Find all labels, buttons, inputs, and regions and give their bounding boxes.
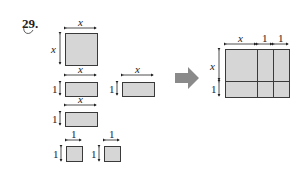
tile-width-label: x (135, 64, 140, 75)
x-squared-tile (225, 49, 258, 82)
tile-height-label: 1 (109, 84, 115, 95)
x-squared-tile (65, 33, 98, 66)
tile-width-label: 1 (109, 129, 115, 140)
arrow-right-icon (175, 67, 199, 89)
tile-height-label: 1 (53, 149, 59, 160)
tile-width-label: 1 (71, 129, 77, 140)
result-height-label: x (210, 61, 215, 72)
tile-height-label: 1 (52, 114, 58, 125)
result-width-label: 1 (262, 33, 268, 44)
tile-width-label: x (78, 17, 83, 28)
result-height-label: 1 (211, 84, 217, 95)
result-rectangle (225, 49, 290, 98)
x-by-1-tile (257, 49, 274, 82)
result-width-label: 1 (278, 33, 284, 44)
unit-tile (104, 146, 121, 162)
result-width-label: x (238, 33, 243, 44)
unit-tile (257, 81, 274, 98)
x-by-1-tile (65, 112, 98, 127)
tile-height-label: 1 (91, 149, 97, 160)
tile-height-label: x (51, 44, 56, 55)
tile-height-label: 1 (52, 84, 58, 95)
unit-tile (66, 146, 83, 162)
tile-width-label: x (78, 64, 83, 75)
x-by-1-tile (225, 81, 258, 98)
x-by-1-tile (273, 49, 290, 82)
unit-tile (273, 81, 290, 98)
x-by-1-tile (122, 82, 155, 97)
tile-width-label: x (78, 94, 83, 105)
